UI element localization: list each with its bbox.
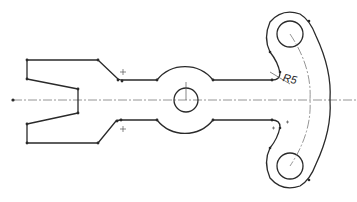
construction-plus-marks xyxy=(120,69,126,132)
forked-left-end[interactable] xyxy=(26,59,159,145)
cad-sketch-canvas[interactable]: R5 xyxy=(0,0,357,202)
fillet-radius-label: R5 xyxy=(282,71,299,86)
horizontal-centerline xyxy=(11,98,357,101)
sketch-vertices xyxy=(26,59,159,145)
fillet-dimension[interactable]: R5 xyxy=(270,71,299,86)
